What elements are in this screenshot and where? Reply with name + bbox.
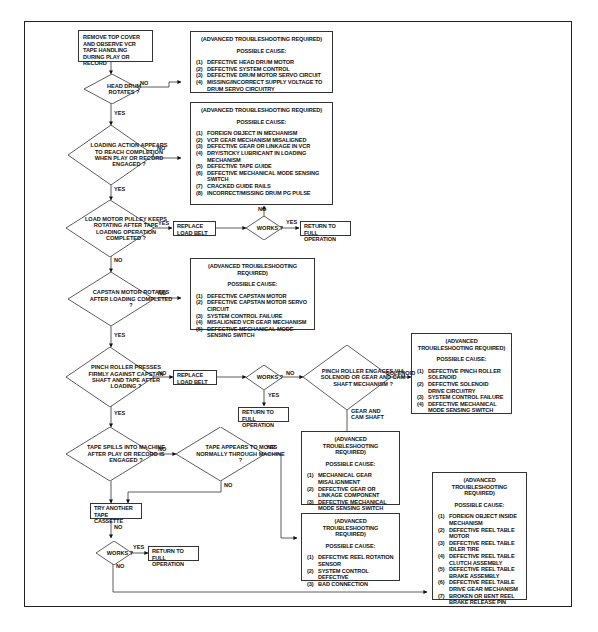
cause-item: (2)DEFECTIVE SOLENOID DRIVE CIRCUITRY <box>417 381 506 394</box>
label-yes: YES <box>133 544 144 550</box>
try-another-cassette-box: TRY ANOTHER TAPE CASSETTE <box>90 503 142 519</box>
decision-tape-spills: TAPE SPILLS INTO MACHINE AFTER PLAY OR R… <box>66 427 154 481</box>
cause-item: (3)SYSTEM CONTROL FAILURE <box>417 394 506 401</box>
cause-box-reel-sensor: (ADVANCED TROUBLESHOOTING REQUIRED) POSS… <box>301 513 400 581</box>
possible-cause-label: POSSIBLE CAUSE: <box>196 119 327 126</box>
cause-item: (7)BROKEN OR BENT REEL BRAKE RELEASE PIN <box>438 593 521 606</box>
cause-item: (4)DEFECTIVE REEL TABLE CLUTCH ASSEMBLY <box>438 553 521 566</box>
cause-header: (ADVANCED TROUBLESHOOTING REQUIRED) <box>196 107 327 114</box>
cause-item: (4)DEFECTIVE MECHANICAL MODE SENSING SWI… <box>417 401 506 414</box>
cause-item: (6)DEFECTIVE REEL TABLE DRIVE GEAR MECHA… <box>438 579 521 592</box>
decision-load-motor-text: LOAD MOTOR PULLEY KEEPS ROTATING AFTER T… <box>66 200 186 257</box>
cause-item: (1)FOREIGN OBJECT IN MECHANISM <box>196 130 327 137</box>
cause-item: (3)DEFECTIVE DRUM MOTOR SERVO CIRCUIT <box>196 72 327 79</box>
decision-works-1: WORKS ? <box>246 216 282 240</box>
decision-loading: LOADING ACTION APPEARS TO REACH COMPLETI… <box>68 125 154 185</box>
cause-item: (1)DEFECTIVE HEAD DRUM MOTOR <box>196 59 327 66</box>
return-full-operation-box-1: RETURN TO FULL OPERATION <box>300 221 351 236</box>
cause-box-loading: (ADVANCED TROUBLESHOOTING REQUIRED) POSS… <box>190 102 333 205</box>
decision-head-drum: HEAD DRUM ROTATES ? <box>84 74 140 104</box>
cause-item: (8)INCORRECT/MISSING DRUM PG PULSE <box>196 190 327 197</box>
decision-pinch-engage: PINCH ROLLER ENGAGES VIA SOLENOID OR GEA… <box>303 345 391 410</box>
decision-capstan-text: CAPSTAN MOTOR ROTATES AFTER LOADING COMP… <box>68 272 194 326</box>
cause-item: (4)MISALIGNED VCR GEAR MECHANISM <box>196 319 309 326</box>
label-yes: YES <box>158 220 169 226</box>
return-full-operation-box-3: RETURN TO FULL OPERATION <box>148 546 199 561</box>
return-full-operation-box-2: RETURN TO FULL OPERATION <box>238 407 289 422</box>
cause-box-head-drum: (ADVANCED TROUBLESHOOTING REQUIRED) POSS… <box>190 31 333 93</box>
label-yes: YES <box>114 332 125 338</box>
cause-box-gear-cam: (ADVANCED TROUBLESHOOTING REQUIRED) POSS… <box>301 431 400 505</box>
label-solenoid: SOLENOID <box>386 370 415 376</box>
replace-load-belt-text-1: REPLACE LOAD BELT <box>177 223 208 236</box>
possible-cause-label: POSSIBLE CAUSE: <box>438 502 521 509</box>
label-no: NO <box>158 446 166 452</box>
decision-works-2: WORKS ? <box>246 365 282 390</box>
return-full-operation-text-3: RETURN TO FULL OPERATION <box>152 548 184 567</box>
label-no: NO <box>258 206 266 212</box>
label-gear-cam: GEAR AND CAM SHAFT <box>351 408 391 421</box>
cause-box-capstan: (ADVANCED TROUBLESHOOTING REQUIRED) POSS… <box>190 258 315 330</box>
return-full-operation-text-2: RETURN TO FULL OPERATION <box>242 409 274 428</box>
cause-item: (5)DEFECTIVE TAPE GUIDE <box>196 163 327 170</box>
cause-header: (ADVANCED TROUBLESHOOTING REQUIRED) <box>196 263 309 276</box>
label-yes: YES <box>286 219 297 225</box>
label-yes: YES <box>114 186 125 192</box>
decision-loading-text: LOADING ACTION APPEARS TO REACH COMPLETI… <box>68 125 190 185</box>
start-step-box: REMOVE TOP COVER AND OBSERVE VCR TAPE HA… <box>78 30 153 62</box>
cause-item: (3)DEFECTIVE MECHANICAL MODE SENSING SWI… <box>307 499 394 512</box>
cause-box-solenoid: (ADVANCED TROUBLESHOOTING REQUIRED) POSS… <box>411 333 512 414</box>
cause-item: (6)DEFECTIVE MECHANICAL MODE SENSING SWI… <box>196 170 327 183</box>
cause-item: (1)DEFECTIVE CAPSTAN MOTOR <box>196 293 309 300</box>
possible-cause-label: POSSIBLE CAUSE: <box>307 461 394 468</box>
cause-item: (2)DEFECTIVE REEL TABLE MOTOR <box>438 527 521 540</box>
return-full-operation-text-1: RETURN TO FULL OPERATION <box>304 223 336 242</box>
cause-header: (ADVANCED TROUBLESHOOTING REQUIRED) <box>307 436 394 456</box>
decision-tape-moves: TAPE APPEARS TO MOVE NORMALLY THROUGH MA… <box>176 427 265 481</box>
cause-item: (2)DEFECTIVE SYSTEM CONTROL <box>196 66 327 73</box>
label-yes: YES <box>114 410 125 416</box>
cause-header: (ADVANCED TROUBLESHOOTING REQUIRED) <box>438 477 521 497</box>
cause-item: (1)MECHANICAL GEAR MISALIGNMENT <box>307 472 394 485</box>
cause-box-reel-table: (ADVANCED TROUBLESHOOTING REQUIRED) POSS… <box>432 472 527 600</box>
cause-item: (3)DEFECTIVE GEAR OR LINKAGE IN VCR <box>196 143 327 150</box>
cause-item: (2)DEFECTIVE GEAR OR LINKAGE COMPONENT <box>307 486 394 499</box>
possible-cause-label: POSSIBLE CAUSE: <box>196 48 327 55</box>
label-yes: YES <box>266 444 277 450</box>
label-yes: YES <box>114 110 125 116</box>
cause-item: (2)VCR GEAR MECHANISM MISALIGNED <box>196 137 327 144</box>
label-no: NO <box>286 370 294 376</box>
cause-item: (2)DEFECTIVE CAPSTAN MOTOR SERVO CIRCUIT <box>196 299 309 312</box>
label-no: NO <box>157 145 165 151</box>
cause-item: (4)DRY/STICKY LUBRICANT IN LOADING MECHA… <box>196 150 327 163</box>
cause-header: (ADVANCED TROUBLESHOOTING REQUIRED) <box>196 36 327 43</box>
replace-load-belt-box-1: REPLACE LOAD BELT <box>173 221 216 236</box>
decision-works-2-text: WORKS ? <box>246 365 294 390</box>
replace-load-belt-text-2: REPLACE LOAD BELT <box>177 372 208 385</box>
cause-item: (1)DEFECTIVE PINCH ROLLER SOLENOID <box>417 368 506 381</box>
decision-pinch-engage-text: PINCH ROLLER ENGAGES VIA SOLENOID OR GEA… <box>303 345 423 410</box>
cause-item: (4)MISSING/INCORRECT SUPPLY VOLTAGE TO D… <box>196 79 327 92</box>
cause-item: (3)BAD CONNECTION <box>307 581 394 588</box>
label-no: NO <box>158 370 166 376</box>
label-no: NO <box>114 524 122 530</box>
replace-load-belt-box-2: REPLACE LOAD BELT <box>173 370 217 385</box>
cause-item: (3)SYSTEM CONTROL FAILURE <box>196 313 309 320</box>
label-no: NO <box>114 257 122 263</box>
cause-item: (1)FOREIGN OBJECT INSIDE MECHANISM <box>438 513 521 526</box>
decision-tape-spills-text: TAPE SPILLS INTO MACHINE AFTER PLAY OR R… <box>66 427 186 481</box>
cause-item: (5)DEFECTIVE MECHANICAL MODE SENSING SWI… <box>196 326 309 339</box>
label-no: NO <box>116 563 124 569</box>
cause-item: (7)CRACKED GUIDE RAILS <box>196 183 327 190</box>
cause-header: (ADVANCED TROUBLESHOOTING REQUIRED) <box>417 338 506 351</box>
label-no: NO <box>224 482 232 488</box>
decision-capstan: CAPSTAN MOTOR ROTATES AFTER LOADING COMP… <box>68 272 154 326</box>
decision-tape-moves-text: TAPE APPEARS TO MOVE NORMALLY THROUGH MA… <box>176 427 305 481</box>
decision-pinch-roller-text: PINCH ROLLER PRESSES FIRMLY AGAINST CAPS… <box>66 347 186 407</box>
cause-item: (2)SYSTEM CONTROL DEFECTIVE <box>307 568 394 581</box>
decision-load-motor: LOAD MOTOR PULLEY KEEPS ROTATING AFTER T… <box>66 200 154 257</box>
decision-head-drum-text: HEAD DRUM ROTATES ? <box>84 74 164 104</box>
cause-item: (5)DEFECTIVE REEL TABLE BRAKE ASSEMBLY <box>438 566 521 579</box>
label-yes: YES <box>268 392 279 398</box>
start-step-text: REMOVE TOP COVER AND OBSERVE VCR TAPE HA… <box>83 34 140 66</box>
